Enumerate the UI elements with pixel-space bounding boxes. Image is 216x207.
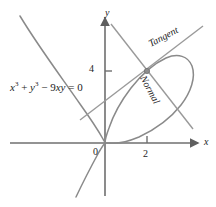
x-axis-label: x xyxy=(204,137,208,147)
tangent-line xyxy=(80,26,203,120)
equation-plus: + xyxy=(18,81,30,93)
x-tick-label-2: 2 xyxy=(143,149,148,159)
equation-minus: − 9 xyxy=(39,81,56,93)
y-axis-label: y xyxy=(105,8,109,18)
plot-svg xyxy=(0,0,216,207)
equation-label: x3 + y3 − 9xy = 0 xyxy=(10,81,83,93)
figure-container: y x 4 2 0 x3 + y3 − 9xy = 0 Tangent Norm… xyxy=(0,0,216,207)
equation-equals: = 0 xyxy=(65,81,82,93)
folium-curve xyxy=(20,16,193,197)
y-tick-label-4: 4 xyxy=(89,64,94,74)
origin-label: 0 xyxy=(93,147,98,157)
